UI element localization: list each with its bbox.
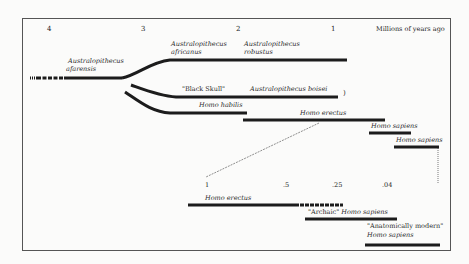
label-homo-sapiens-2: Homo sapiens	[396, 137, 443, 145]
boisei-end-mark: )	[343, 90, 346, 98]
inset-tick-0-04: .04	[382, 181, 392, 189]
inset-label-modern-homo-sapiens: "Anatomically modern" Homo sapiens	[367, 223, 443, 239]
inset-tick-0-5: .5	[283, 181, 289, 189]
inset-tick-1: 1	[205, 181, 209, 189]
label-black-skull: "Black Skull"	[182, 86, 225, 94]
inset-label-homo-erectus: Homo erectus	[205, 195, 251, 203]
label-homo-erectus: Homo erectus	[300, 110, 346, 118]
label-boisei: Australopithecus boisei	[250, 86, 327, 94]
label-afarensis: Australopithecus afarensis	[68, 58, 124, 73]
inset-label-archaic-homo-sapiens: "Archaic" Homo sapiens	[308, 209, 388, 217]
label-robustus: Australopithecus robustus	[244, 41, 300, 56]
label-homo-sapiens-1: Homo sapiens	[371, 123, 418, 131]
inset-tick-0-25: .25	[332, 181, 342, 189]
label-africanus: Australopithecus africanus	[171, 41, 227, 56]
label-homo-habilis: Homo habilis	[199, 102, 243, 110]
